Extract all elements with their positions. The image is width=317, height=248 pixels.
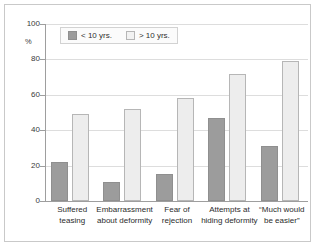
legend-entry-under-10: < 10 yrs. [68,31,112,40]
x-axis-category-label: Sufferedteasing [42,205,102,226]
y-axis-tick [40,201,45,202]
legend-swatch-over-10 [126,31,135,40]
legend-label-under-10: < 10 yrs. [81,31,112,40]
x-axis-label-line: hiding deformity [199,216,259,227]
y-axis-tick-label: 80 [14,55,40,63]
x-axis-label-line: Suffered [42,205,102,216]
x-axis-category-label: Attempts athiding deformity [199,205,259,226]
chart-frame: 020406080100 % < 10 yrs. > 10 yrs. Suffe… [4,4,311,242]
bar [177,98,194,201]
y-axis-tick [40,59,45,60]
bar-group [203,24,255,201]
y-axis-unit-label: % [25,37,32,46]
x-axis-line [45,201,308,202]
y-axis-tick-label: 40 [14,126,40,134]
legend-entry-over-10: > 10 yrs. [126,31,170,40]
y-axis-tick [40,166,45,167]
bar [261,146,278,201]
x-axis-label-line: “Much would [252,205,312,216]
legend-label-over-10: > 10 yrs. [139,31,170,40]
y-axis-tick [40,130,45,131]
y-axis-tick-label: 0 [14,197,40,205]
bar-group [98,24,150,201]
bar [72,114,89,201]
y-axis-tick-label: 100 [14,20,40,28]
x-axis-category-labels: SufferedteasingEmbarrassmentabout deform… [46,205,308,239]
bar [208,118,225,201]
bar [229,74,246,201]
chart-legend: < 10 yrs. > 10 yrs. [60,27,178,44]
x-axis-category-label: “Much wouldbe easier” [252,205,312,226]
bar-group [151,24,203,201]
x-axis-category-label: Embarrassmentabout deformity [94,205,154,226]
x-axis-label-line: about deformity [94,216,154,227]
bar [51,162,68,201]
y-axis-tick-label: 60 [14,91,40,99]
x-axis-label-line: teasing [42,216,102,227]
bar [156,174,173,201]
bar-group [46,24,98,201]
y-axis-tick [40,24,45,25]
x-axis-label-line: Fear of [147,205,207,216]
y-axis-tick-label: 20 [14,162,40,170]
bar-group [256,24,308,201]
x-axis-label-line: Attempts at [199,205,259,216]
legend-swatch-under-10 [68,31,77,40]
bar [124,109,141,201]
x-axis-label-line: Embarrassment [94,205,154,216]
x-axis-label-line: be easier” [252,216,312,227]
plot-area [46,24,308,201]
bar [282,61,299,201]
bar [103,182,120,201]
y-axis-tick [40,95,45,96]
y-axis-line [45,24,46,202]
x-axis-category-label: Fear ofrejection [147,205,207,226]
x-axis-label-line: rejection [147,216,207,227]
